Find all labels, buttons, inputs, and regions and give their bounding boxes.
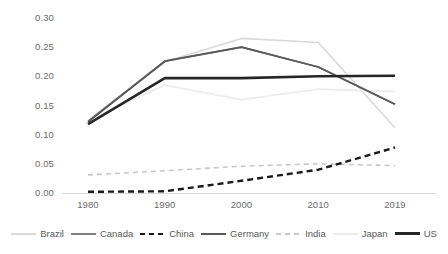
- legend-item-china[interactable]: China: [140, 228, 194, 239]
- series-line-china: [88, 148, 395, 192]
- legend-label: Germany: [230, 228, 269, 239]
- legend-item-brazil[interactable]: Brazil: [11, 228, 64, 239]
- legend-swatch-india-icon: [276, 233, 301, 235]
- legend-item-germany[interactable]: Germany: [201, 228, 269, 239]
- legend-item-india[interactable]: India: [276, 228, 326, 239]
- legend-item-japan[interactable]: Japan: [333, 228, 388, 239]
- series-line-brazil: [88, 38, 395, 127]
- legend-swatch-japan-icon: [333, 233, 358, 235]
- legend-label: India: [305, 228, 326, 239]
- legend-item-canada[interactable]: Canada: [71, 228, 133, 239]
- legend-swatch-germany-icon: [201, 233, 226, 235]
- legend-swatch-brazil-icon: [11, 233, 36, 235]
- legend-swatch-china-icon: [140, 233, 165, 235]
- legend-swatch-canada-icon: [71, 233, 96, 235]
- line-chart: 0.300.250.200.150.100.050.00 19801990200…: [0, 0, 448, 254]
- plot-area: [0, 0, 448, 254]
- legend-label: Brazil: [40, 228, 64, 239]
- legend-label: Japan: [362, 228, 388, 239]
- legend-label: Canada: [100, 228, 133, 239]
- series-line-india: [88, 164, 395, 175]
- chart-legend: BrazilCanadaChinaGermanyIndiaJapanUS: [0, 228, 448, 239]
- legend-swatch-us-icon: [395, 232, 420, 235]
- legend-label: China: [169, 228, 194, 239]
- series-line-germany: [88, 47, 395, 122]
- series-line-japan: [88, 85, 395, 120]
- legend-item-us[interactable]: US: [395, 228, 437, 239]
- legend-label: US: [424, 228, 437, 239]
